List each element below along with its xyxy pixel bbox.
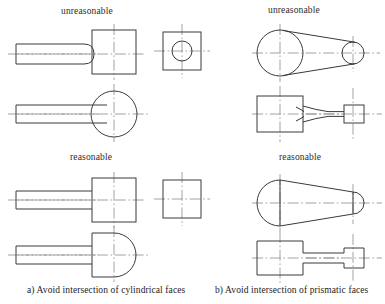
caption-panel-a: a) Avoid intersection of cylindrical fac… — [27, 285, 185, 295]
taper-line-upper — [283, 31, 355, 43]
view-shaft-square-block-filleted — [8, 22, 148, 80]
view-end-square — [154, 172, 210, 226]
view-straight-web-square-shoulders — [252, 232, 384, 284]
label-unreasonable-left: unreasonable — [61, 6, 113, 16]
view-shaft-square-shoulder — [8, 172, 148, 228]
label-unreasonable-right: unreasonable — [268, 5, 320, 15]
view-shaft-domed-block — [8, 226, 153, 282]
figure-sheet: unreasonable unreasonable reasonable rea… — [0, 0, 385, 304]
label-reasonable-left: reasonable — [70, 152, 112, 162]
label-reasonable-right: reasonable — [279, 152, 321, 162]
view-shaft-full-circle — [8, 84, 153, 142]
web-upper-curve — [303, 106, 344, 112]
view-rounded-ends-taper — [252, 174, 384, 232]
caption-panel-b: b) Avoid intersection of prismatic faces — [215, 285, 368, 295]
view-tapered-web-curved — [252, 86, 384, 142]
view-end-square-with-circle — [154, 24, 210, 78]
view-two-circles-tangent-taper — [252, 24, 382, 82]
taper-line-lower — [283, 64, 355, 76]
web-lower-curve — [303, 116, 344, 122]
